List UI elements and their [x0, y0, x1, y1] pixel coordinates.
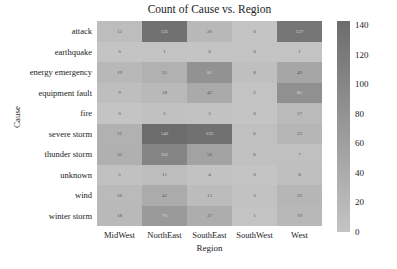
heatmap-cell: 0	[232, 21, 277, 42]
heatmap-cell: 1	[232, 206, 277, 227]
colorbar-ticks: 020406080100120140	[355, 21, 395, 232]
chart-title: Count of Cause vs. Region	[97, 3, 322, 15]
colorbar-tick: 100	[355, 79, 369, 89]
heatmap-cell: 0	[97, 103, 142, 124]
colorbar-tick: 40	[355, 168, 364, 178]
y-tick-label: winter storm	[30, 206, 92, 227]
y-tick-label: thunder storm	[30, 144, 92, 165]
heatmap-cell: 135	[142, 21, 187, 42]
heatmap-grid: 1213520012701001193181849918422850530173…	[97, 21, 322, 226]
heatmap-cell: 7	[277, 144, 322, 165]
heatmap-cell: 143	[142, 124, 187, 145]
heatmap-cell: 56	[187, 144, 232, 165]
colorbar-tick: 0	[355, 227, 360, 237]
heatmap-cell: 3	[232, 185, 277, 206]
heatmap-cell: 4	[187, 165, 232, 186]
heatmap-cell: 102	[142, 144, 187, 165]
heatmap-cell: 0	[232, 42, 277, 63]
y-tick-label: energy emergency	[30, 62, 92, 83]
heatmap-cell: 41	[142, 185, 187, 206]
heatmap-cell: 19	[97, 62, 142, 83]
y-tick-label: fire	[30, 103, 92, 124]
heatmap-cell: 0	[97, 42, 142, 63]
heatmap-cell: 0	[232, 103, 277, 124]
heatmap-cell: 2	[232, 83, 277, 104]
x-tick-label: SouthWest	[232, 230, 277, 240]
heatmap-cell: 5	[142, 103, 187, 124]
heatmap-cell: 70	[142, 206, 187, 227]
heatmap-cell: 18	[142, 83, 187, 104]
heatmap-cell: 8	[277, 165, 322, 186]
heatmap-cell: 22	[277, 185, 322, 206]
heatmap-cell: 81	[187, 62, 232, 83]
heatmap-cell: 11	[142, 165, 187, 186]
y-tick-label: wind	[30, 185, 92, 206]
heatmap-cell: 32	[97, 144, 142, 165]
y-tick-label: earthquake	[30, 42, 92, 63]
heatmap-cell: 12	[97, 21, 142, 42]
y-tick-label: severe storm	[30, 124, 92, 145]
x-axis-labels: MidWestNorthEastSouthEastSouthWestWest	[97, 230, 322, 240]
colorbar-tick: 120	[355, 50, 369, 60]
heatmap-cell: 13	[187, 185, 232, 206]
heatmap-cell: 16	[97, 185, 142, 206]
heatmap-cell: 42	[187, 83, 232, 104]
y-axis-labels: attackearthquakeenergy emergencyequipmen…	[30, 21, 92, 226]
x-tick-label: MidWest	[97, 230, 142, 240]
y-axis-title: Cause	[12, 102, 22, 132]
x-tick-label: NorthEast	[142, 230, 187, 240]
heatmap-cell: 17	[277, 103, 322, 124]
heatmap-cell: 31	[97, 124, 142, 145]
heatmap-cell: 19	[277, 206, 322, 227]
colorbar-tick: 140	[355, 20, 369, 30]
heatmap-cell: 8	[232, 62, 277, 83]
colorbar-tick: 60	[355, 138, 364, 148]
heatmap-cell: 18	[97, 206, 142, 227]
heatmap-cell: 31	[142, 62, 187, 83]
heatmap-cell: 6	[232, 124, 277, 145]
heatmap-cell: 1	[277, 42, 322, 63]
x-tick-label: West	[277, 230, 322, 240]
heatmap-cell: 3	[187, 103, 232, 124]
heatmap-cell: 135	[187, 124, 232, 145]
heatmap-cell: 20	[187, 21, 232, 42]
heatmap-cell: 5	[97, 165, 142, 186]
colorbar-tick: 80	[355, 109, 364, 119]
heatmap-cell: 23	[277, 124, 322, 145]
heatmap-cell: 49	[277, 62, 322, 83]
y-tick-label: equipment fault	[30, 83, 92, 104]
y-tick-label: unknown	[30, 165, 92, 186]
heatmap-cell: 1	[142, 42, 187, 63]
colorbar	[337, 21, 350, 232]
heatmap-cell: 127	[277, 21, 322, 42]
x-tick-label: SouthEast	[187, 230, 232, 240]
heatmap-cell: 9	[97, 83, 142, 104]
heatmap-cell: 85	[277, 83, 322, 104]
x-axis-title: Region	[97, 243, 322, 253]
y-tick-label: attack	[30, 21, 92, 42]
heatmap-cell: 37	[187, 206, 232, 227]
colorbar-tick: 20	[355, 197, 364, 207]
heatmap-cell: 0	[232, 165, 277, 186]
heatmap-cell: 6	[232, 144, 277, 165]
heatmap-cell: 0	[187, 42, 232, 63]
